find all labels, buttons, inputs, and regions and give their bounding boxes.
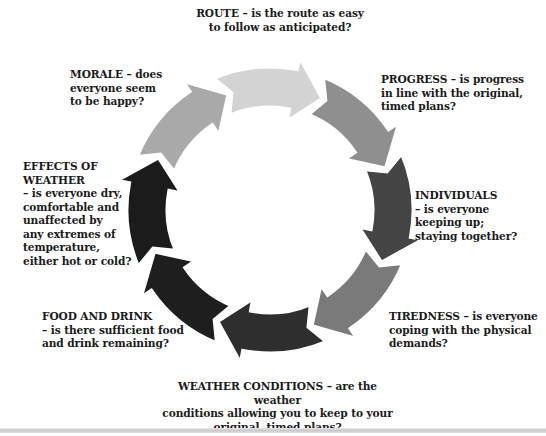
label-line: PROGRESS – is progress	[381, 73, 546, 87]
label-line: everyone seem	[70, 82, 180, 96]
label-line: staying together?	[415, 230, 545, 244]
arrow-route	[214, 58, 322, 121]
label-tiredness: TIREDNESS – is everyone coping with the …	[389, 310, 546, 351]
label-line: TIREDNESS – is everyone	[389, 310, 546, 324]
label-line: WEATHER CONDITIONS – are the weather	[160, 380, 395, 407]
arrow-individuals	[359, 154, 422, 262]
label-line: conditions allowing you to keep to your	[160, 407, 395, 421]
label-line: either hot or cold?	[23, 255, 138, 269]
label-weather-conditions: WEATHER CONDITIONS – are the weather con…	[160, 380, 395, 434]
label-line: temperature,	[23, 241, 138, 255]
arrow-weather-conditions	[218, 299, 326, 362]
label-line: comfortable and	[23, 201, 138, 215]
label-line: in line with the original,	[381, 87, 546, 101]
label-line: – is everyone dry,	[23, 187, 138, 201]
label-line: – is there sufficient food	[42, 324, 192, 338]
label-route: ROUTE – is the route as easy to follow a…	[185, 7, 375, 34]
label-line: MORALE – does	[70, 68, 180, 82]
label-line: WEATHER	[23, 174, 138, 188]
label-line: demands?	[389, 337, 546, 351]
label-line: EFFECTS OF	[23, 160, 138, 174]
label-line: FOOD AND DRINK	[42, 310, 192, 324]
label-food-and-drink: FOOD AND DRINK – is there sufficient foo…	[42, 310, 192, 351]
bottom-divider	[0, 428, 546, 433]
label-individuals: INDIVIDUALS – is everyone keeping up; st…	[415, 189, 545, 243]
label-progress: PROGRESS – is progress in line with the …	[381, 73, 546, 114]
label-line: any extremes of	[23, 228, 138, 242]
label-effects-of-weather: EFFECTS OF WEATHER – is everyone dry, co…	[23, 160, 138, 268]
label-line: INDIVIDUALS	[415, 189, 545, 203]
label-line: to be happy?	[70, 95, 180, 109]
label-line: to follow as anticipated?	[185, 21, 375, 35]
label-line: coping with the physical	[389, 324, 546, 338]
label-line: ROUTE – is the route as easy	[185, 7, 375, 21]
label-line: unaffected by	[23, 214, 138, 228]
label-morale: MORALE – does everyone seem to be happy?	[70, 68, 180, 109]
label-line: keeping up;	[415, 216, 545, 230]
label-line: and drink remaining?	[42, 337, 192, 351]
label-line: – is everyone	[415, 203, 545, 217]
label-line: timed plans?	[381, 100, 546, 114]
